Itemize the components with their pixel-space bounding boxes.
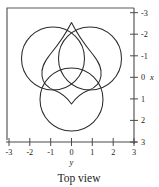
horizontal-tick-label-5: 2	[111, 148, 115, 157]
horizontal-tick-label-1: -2	[26, 148, 33, 157]
vertical-tick-label-4: 1	[141, 95, 145, 104]
plot-svg: -3 -2 -1 0 1 2 3 x -3 -2 -1 0 1 2 3 y To…	[0, 0, 159, 187]
horizontal-tick-label-2: -1	[47, 148, 54, 157]
horizontal-tick-label-3: 0	[69, 148, 73, 157]
vertical-tick-label-1: -2	[141, 30, 148, 39]
figure-container: -3 -2 -1 0 1 2 3 x -3 -2 -1 0 1 2 3 y To…	[0, 0, 159, 187]
horizontal-tick-label-0: -3	[6, 148, 13, 157]
vertical-tick-label-0: -3	[141, 9, 148, 18]
vertical-tick-label-3: 0	[141, 73, 145, 82]
vertical-axis-label: x	[149, 72, 154, 82]
circle-upper-right	[59, 27, 122, 90]
horizontal-axis-label: y	[69, 157, 74, 167]
horizontal-tick-label-4: 1	[90, 148, 94, 157]
vertical-tick-label-5: 2	[141, 116, 145, 125]
horizontal-tick-label-6: 3	[132, 148, 136, 157]
figure-caption: Top view	[58, 172, 102, 185]
vertical-tick-label-6: 3	[141, 138, 145, 147]
inner-rounded-triangle-curve	[42, 23, 101, 104]
circle-lower	[40, 68, 103, 131]
vertical-tick-label-2: -1	[141, 52, 148, 61]
circle-upper-left	[22, 27, 85, 90]
